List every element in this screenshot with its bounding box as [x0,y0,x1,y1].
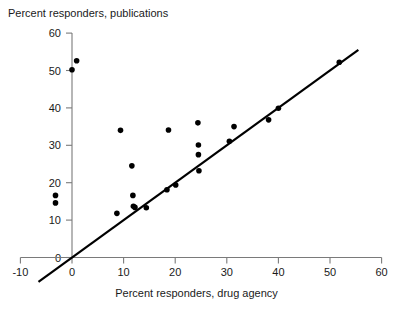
data-point [195,120,201,126]
plot-canvas: 0102030405060 -100102030405060 [0,0,393,309]
data-point [164,187,170,193]
data-point [196,142,202,148]
x-tick-label: 20 [169,266,181,278]
y-tick-label: 40 [49,102,61,114]
data-point [336,59,342,65]
y-tick-label: 50 [49,65,61,77]
data-point [166,127,172,133]
x-tick-label: 40 [272,266,284,278]
data-point [53,193,59,199]
x-axis-title: Percent responders, drug agency [0,287,393,300]
x-tick-label: 60 [375,266,387,278]
x-tick-label: -10 [12,266,28,278]
x-tick-label: 10 [117,266,129,278]
data-point [196,152,202,158]
identity-line-segment [38,50,358,282]
y-tick-label: 60 [49,27,61,39]
data-points-layer [53,58,342,216]
data-point [118,128,124,134]
x-tick-label: 30 [221,266,233,278]
data-point [130,193,136,199]
data-point [69,67,75,73]
data-point [266,117,272,123]
data-point [132,205,138,211]
data-point [144,205,150,211]
data-point [53,200,59,206]
data-point [173,182,179,188]
data-point [114,211,120,217]
data-point [129,163,135,169]
identity-line [38,50,358,282]
data-point [74,58,80,64]
y-axis: 0102030405060 [49,27,72,263]
scatter-plot-figure: Percent responders, publications 0102030… [0,0,393,309]
y-tick-label: 30 [49,139,61,151]
x-tick-label: 50 [324,266,336,278]
x-tick-label: 0 [69,266,75,278]
data-point [196,168,202,174]
data-point [276,105,282,111]
y-tick-label: 10 [49,214,61,226]
data-point [231,124,237,130]
y-tick-label: 20 [49,177,61,189]
data-point [227,138,233,144]
